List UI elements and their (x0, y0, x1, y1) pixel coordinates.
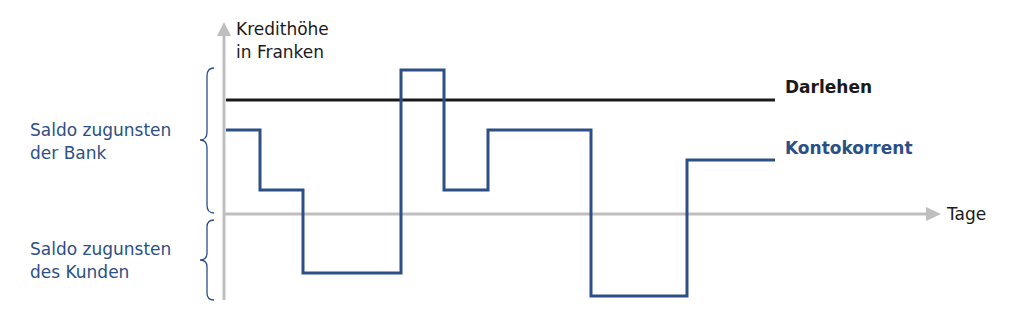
lower-brace-icon (200, 220, 214, 300)
diagram-canvas (0, 0, 1016, 327)
y-axis-arrow-icon (217, 22, 231, 36)
lower-region-label-line1: Saldo zugunsten (30, 238, 171, 260)
x-axis-arrow-icon (926, 207, 941, 221)
y-axis (217, 22, 231, 300)
y-axis-label-line2: in Franken (236, 41, 324, 63)
y-axis-label-line1: Kredithöhe (236, 18, 329, 40)
kontokorrent-line (226, 70, 775, 296)
lower-region-label-line2: des Kunden (30, 261, 129, 283)
x-axis (224, 207, 941, 221)
legend-darlehen: Darlehen (785, 76, 872, 98)
x-axis-label: Tage (947, 203, 986, 225)
legend-kontokorrent: Kontokorrent (785, 137, 913, 159)
upper-region-label-line1: Saldo zugunsten (30, 119, 171, 141)
upper-brace-icon (200, 68, 214, 213)
upper-region-label-line2: der Bank (30, 142, 106, 164)
